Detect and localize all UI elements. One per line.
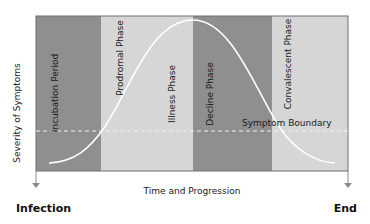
y-axis-label: Severity of Symptoms xyxy=(12,63,22,163)
phase-label-convalescent: Convalescent Phase xyxy=(283,18,293,109)
phase-band-incubation xyxy=(36,16,101,171)
disease-progression-diagram: Incubation Period Prodromal Phase Illnes… xyxy=(0,0,370,224)
phase-label-decline: Decline Phase xyxy=(205,62,215,126)
x-axis-label: Time and Progression xyxy=(143,186,241,196)
phase-label-prodromal: Prodromal Phase xyxy=(115,20,125,96)
end-arrow-icon xyxy=(344,171,352,188)
end-label: End xyxy=(334,202,357,215)
symptom-boundary-label: Symptom Boundary xyxy=(242,118,332,128)
phase-label-illness: Illness Phase xyxy=(167,65,177,123)
infection-label: Infection xyxy=(16,202,71,215)
start-arrow-icon xyxy=(32,171,40,188)
phase-label-incubation: Incubation Period xyxy=(50,54,60,132)
